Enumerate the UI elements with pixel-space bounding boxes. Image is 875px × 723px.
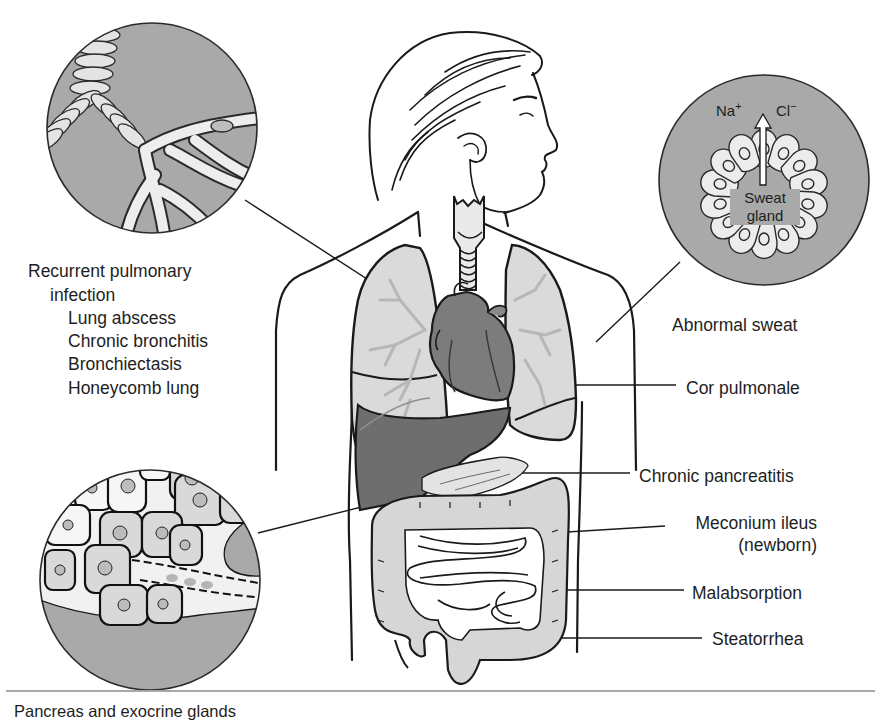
- head: [369, 32, 557, 213]
- trachea: [454, 196, 484, 290]
- meconium-line2: (newborn): [675, 534, 817, 556]
- bottom-divider: [6, 690, 875, 692]
- sweat-gland-inset: [659, 75, 869, 285]
- label-chronic-pancreatitis: Chronic pancreatitis: [639, 465, 794, 487]
- pulmonary-item: Chronic bronchitis: [68, 330, 208, 352]
- pulmonary-heading-line1: Recurrent pulmonary: [28, 260, 191, 282]
- sodium-charge: +: [735, 100, 741, 112]
- label-malabsorption: Malabsorption: [692, 582, 802, 604]
- label-meconium-ileus: Meconium ileus (newborn): [675, 512, 817, 556]
- pancreas-inset: [40, 450, 270, 700]
- pulmonary-item: Bronchiectasis: [68, 353, 182, 375]
- label-steatorrhea: Steatorrhea: [712, 628, 803, 650]
- lung-inset: [30, 23, 260, 240]
- sweat-gland-label-line2: gland: [730, 207, 800, 225]
- pulmonary-heading-line2: infection: [50, 284, 115, 306]
- sodium-ion-label: Na+: [716, 100, 742, 119]
- sweat-gland-label-line1: Sweat: [730, 189, 800, 207]
- meconium-line1: Meconium ileus: [675, 512, 817, 534]
- label-abnormal-sweat: Abnormal sweat: [672, 314, 797, 336]
- pancreas-inset-caption: Pancreas and exocrine glands: [14, 700, 236, 722]
- chloride-symbol: Cl: [776, 102, 790, 119]
- sweat-gland-label: Sweat gland: [730, 189, 800, 225]
- pulmonary-item: Lung abscess: [68, 307, 176, 329]
- chloride-charge: −: [790, 100, 796, 112]
- sodium-symbol: Na: [716, 102, 735, 119]
- label-cor-pulmonale: Cor pulmonale: [686, 377, 800, 399]
- intestines: [372, 478, 569, 684]
- chloride-ion-label: Cl−: [776, 100, 797, 119]
- pulmonary-item: Honeycomb lung: [68, 377, 199, 399]
